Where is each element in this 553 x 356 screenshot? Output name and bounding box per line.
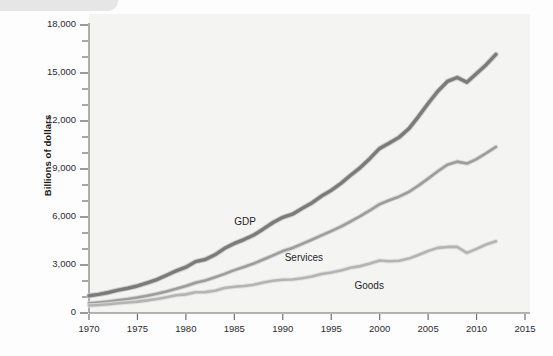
series-label-gdp: GDP: [234, 216, 256, 227]
series-label-goods: Goods: [354, 280, 383, 291]
y-axis-tick-label: 9,000: [18, 162, 76, 173]
y-axis-tick-label: 12,000: [18, 114, 76, 125]
x-axis-tick-label: 2000: [360, 323, 400, 334]
x-axis-tick-label: 2015: [505, 323, 545, 334]
y-axis-tick-label: 3,000: [18, 258, 76, 269]
y-axis-tick-label: 6,000: [18, 210, 76, 221]
x-axis-tick-label: 1970: [69, 323, 109, 334]
series-label-services: Services: [285, 252, 323, 263]
x-axis-tick-label: 1980: [166, 323, 206, 334]
chart-figure: Billions of dollars 03,0006,0009,00012,0…: [0, 0, 553, 356]
x-axis-tick-label: 1995: [311, 323, 351, 334]
x-axis-tick-label: 2005: [408, 323, 448, 334]
series-group: [89, 54, 496, 305]
x-axis-tick-label: 1990: [263, 323, 303, 334]
y-axis-tick-label: 0: [18, 306, 76, 317]
x-axis-tick-label: 1985: [214, 323, 254, 334]
chart-canvas: [0, 0, 553, 356]
x-axis-tick-label: 1975: [117, 323, 157, 334]
y-axis-tick-label: 15,000: [18, 66, 76, 77]
x-axis-tick-label: 2010: [457, 323, 497, 334]
y-axis-tick-label: 18,000: [18, 18, 76, 29]
